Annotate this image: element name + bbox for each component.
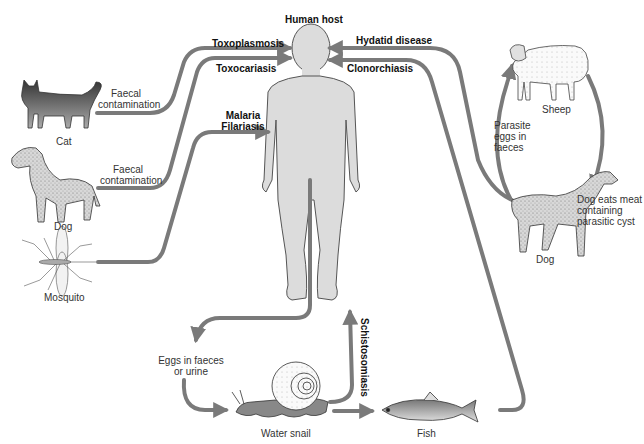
- dog-eats-meat-line1: Dog eats meat: [577, 194, 642, 205]
- eggs-in-faeces-line1: Eggs in faeces: [158, 355, 224, 366]
- faecal-contamination-dog-line1: Faecal: [100, 164, 156, 175]
- fish-illustration: [382, 392, 478, 422]
- human-host-label: Human host: [285, 14, 343, 25]
- faecal-contamination-dog-line2: contamination: [100, 175, 156, 186]
- arrow-malaria-filariasis: [98, 132, 268, 262]
- arrow-schistosomiasis: [330, 312, 352, 402]
- malaria-label: Malaria: [218, 110, 268, 121]
- sheep-label: Sheep: [542, 104, 571, 115]
- cat-illustration: [22, 80, 102, 128]
- toxoplasmosis-label: Toxoplasmosis: [212, 38, 284, 49]
- parasite-eggs-line3: faeces: [494, 142, 523, 153]
- cat-label: Cat: [56, 136, 72, 147]
- mosquito-illustration: [22, 226, 96, 296]
- parasite-transmission-diagram: [0, 0, 644, 444]
- eggs-in-faeces-line2: or urine: [158, 366, 224, 377]
- faecal-contamination-cat-line1: Faecal: [98, 88, 154, 99]
- toxocariasis-label: Toxocariasis: [216, 63, 276, 74]
- dog-eats-meat-line2: containing: [577, 205, 623, 216]
- dog-left-illustration: [12, 147, 100, 222]
- parasite-eggs-line1: Parasite: [494, 120, 531, 131]
- arrow-eggs-to-snail: [184, 380, 226, 410]
- clonorchiasis-label: Clonorchiasis: [347, 63, 413, 74]
- sheep-illustration: [510, 45, 588, 100]
- water-snail-label: Water snail: [261, 428, 311, 439]
- parasite-eggs-line2: eggs in: [494, 131, 526, 142]
- dog-left-label: Dog: [54, 221, 72, 232]
- dog-eats-meat-line3: parasitic cyst: [577, 216, 635, 227]
- filariasis-label: Filariasis: [218, 121, 268, 132]
- water-snail-illustration: [232, 362, 328, 417]
- hydatid-disease-label: Hydatid disease: [356, 35, 432, 46]
- schistosomiasis-label: Schistosomiasis: [359, 318, 370, 397]
- dog-right-label: Dog: [536, 254, 554, 265]
- fish-label: Fish: [417, 428, 436, 439]
- arrow-sheep-to-dog: [588, 76, 603, 188]
- faecal-contamination-cat-line2: contamination: [98, 99, 154, 110]
- mosquito-label: Mosquito: [44, 292, 85, 303]
